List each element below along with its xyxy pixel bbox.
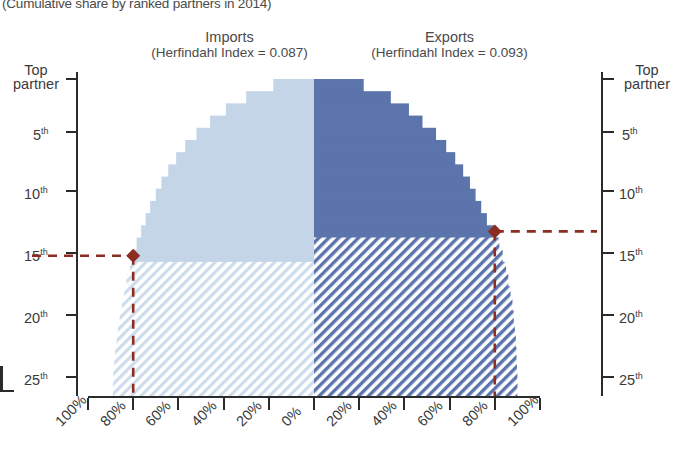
- step-bar-imports-rank-20: [120, 311, 314, 325]
- step-bar-exports-rank-20: [314, 311, 514, 325]
- x-axis-tick-8: [449, 398, 451, 410]
- step-bar-exports-rank-11: [314, 201, 481, 215]
- step-bar-imports-rank-2: [246, 91, 314, 105]
- step-bar-imports-rank-17: [126, 274, 314, 288]
- step-bar-exports-rank-5: [314, 128, 436, 142]
- step-bar-imports-rank-15: [133, 250, 314, 264]
- step-bar-exports-rank-19: [314, 298, 512, 312]
- step-bar-exports-rank-16: [314, 262, 506, 276]
- step-bar-exports-rank-8: [314, 164, 463, 178]
- step-bar-exports-rank-25: [314, 372, 517, 386]
- chart-plot-area: [0, 0, 679, 455]
- step-bar-exports-rank-9: [314, 177, 470, 191]
- step-bar-imports-rank-19: [122, 298, 314, 312]
- step-bar-exports-rank-23: [314, 347, 516, 361]
- step-bar-imports-rank-6: [185, 140, 314, 154]
- step-bar-imports-rank-14: [137, 238, 314, 252]
- x-axis-tick-5: [313, 398, 315, 410]
- step-bar-exports-rank-10: [314, 189, 476, 203]
- step-bar-exports-rank-3: [314, 103, 409, 117]
- step-bar-imports-rank-16: [130, 262, 314, 276]
- step-bar-exports-rank-6: [314, 140, 446, 154]
- series-exports: [314, 79, 517, 397]
- x-axis-tick-6: [358, 398, 360, 410]
- step-bar-imports-rank-3: [226, 103, 314, 117]
- step-bar-imports-rank-25: [113, 372, 314, 386]
- step-bar-exports-rank-12: [314, 213, 487, 227]
- step-bar-exports-rank-18: [314, 286, 511, 300]
- step-bar-exports-rank-2: [314, 91, 391, 105]
- step-bar-exports-rank-21: [314, 323, 515, 337]
- step-bar-exports-rank-17: [314, 274, 508, 288]
- step-bar-imports-rank-12: [146, 213, 314, 227]
- step-bar-exports-rank-24: [314, 359, 517, 373]
- step-bar-imports-rank-21: [118, 323, 314, 337]
- step-bar-imports-rank-4: [210, 116, 314, 130]
- step-bar-imports-rank-9: [161, 177, 314, 191]
- step-bar-imports-rank-24: [114, 359, 314, 373]
- step-bar-imports-rank-11: [150, 201, 314, 215]
- step-bar-imports-rank-10: [156, 189, 314, 203]
- step-bar-imports-rank-8: [168, 164, 314, 178]
- step-bar-exports-rank-1: [314, 79, 364, 93]
- step-bar-exports-rank-15: [314, 250, 503, 264]
- x-axis-tick-1: [132, 398, 134, 410]
- step-bar-exports-rank-22: [314, 335, 516, 349]
- x-axis-tick-2: [177, 398, 179, 410]
- step-bar-exports-rank-7: [314, 152, 455, 166]
- step-bar-exports-rank-14: [314, 238, 499, 252]
- x-axis-tick-7: [403, 398, 405, 410]
- x-axis-tick-4: [268, 398, 270, 410]
- step-bar-imports-rank-5: [196, 128, 314, 142]
- series-imports: [113, 79, 314, 397]
- step-bar-imports-rank-22: [116, 335, 314, 349]
- chart-figure: (Cumulative share by ranked partners in …: [0, 0, 679, 455]
- x-axis-tick-3: [223, 398, 225, 410]
- step-bar-exports-rank-13: [314, 225, 495, 239]
- step-bar-exports-rank-4: [314, 116, 422, 130]
- step-bar-imports-rank-1: [273, 79, 314, 93]
- step-bar-imports-rank-13: [141, 225, 314, 239]
- step-bar-imports-rank-23: [115, 347, 314, 361]
- step-bar-imports-rank-7: [176, 152, 314, 166]
- x-axis-tick-9: [494, 398, 496, 410]
- step-bar-imports-rank-18: [124, 286, 314, 300]
